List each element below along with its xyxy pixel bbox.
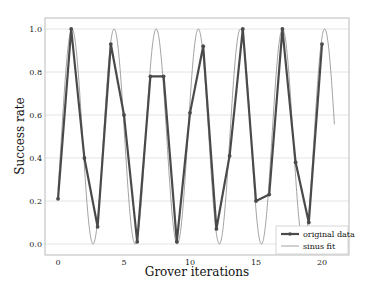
grid-lines (45, 29, 349, 244)
y-axis-ticks: 0.00.20.40.60.81.0 (29, 25, 42, 249)
x-axis-label: Grover iterations (145, 265, 249, 279)
data-point-marker (175, 240, 179, 244)
y-tick-label: 0.4 (29, 154, 42, 163)
data-point-marker (215, 227, 219, 231)
y-tick-label: 0.6 (29, 111, 42, 120)
data-point-marker (201, 44, 205, 48)
y-tick-label: 1.0 (29, 25, 42, 34)
data-point-marker (241, 27, 245, 31)
x-tick-label: 5 (121, 258, 126, 267)
x-tick-label: 20 (317, 258, 327, 267)
y-tick-label: 0.8 (29, 68, 42, 77)
data-point-marker (307, 221, 311, 225)
y-tick-label: 0.0 (29, 240, 42, 249)
y-axis-label: Success rate (13, 97, 27, 174)
data-point-marker (254, 199, 258, 203)
data-point-marker (267, 193, 271, 197)
data-point-marker (122, 113, 126, 117)
data-point-marker (96, 225, 100, 229)
data-point-marker (320, 42, 324, 46)
y-tick-label: 0.2 (29, 197, 42, 206)
data-point-marker (281, 27, 285, 31)
data-point-marker (188, 111, 192, 115)
original-data-line (58, 29, 322, 242)
chart: 05101520 0.00.20.40.60.81.0 Grover itera… (0, 0, 367, 288)
legend-label-original: original data (303, 230, 355, 239)
data-point-marker (83, 156, 87, 160)
data-point-marker (294, 160, 298, 164)
legend-original-marker-icon (288, 232, 292, 236)
plot-frame (45, 18, 349, 255)
data-point-marker (149, 74, 153, 78)
data-point-marker (228, 154, 232, 158)
data-point-marker (69, 27, 73, 31)
data-point-marker (109, 42, 113, 46)
x-tick-label: 0 (55, 258, 60, 267)
data-point-marker (162, 74, 166, 78)
legend-label-sinus: sinus fit (303, 242, 336, 251)
data-point-marker (135, 240, 139, 244)
data-point-marker (56, 197, 60, 201)
x-tick-label: 15 (251, 258, 261, 267)
original-data-series (56, 27, 324, 244)
legend: original data sinus fit (276, 226, 355, 254)
